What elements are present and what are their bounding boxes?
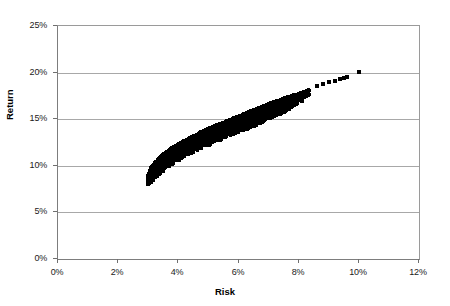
data-point xyxy=(160,169,163,172)
data-point xyxy=(268,114,271,117)
data-point xyxy=(276,100,279,103)
data-point xyxy=(192,147,195,150)
data-point xyxy=(258,122,261,125)
x-tick-mark xyxy=(298,259,299,263)
x-axis-title: Risk xyxy=(0,286,450,297)
data-point xyxy=(306,89,310,93)
y-tick-label: 0% xyxy=(5,253,47,263)
data-point xyxy=(180,157,183,160)
data-point xyxy=(251,125,254,128)
data-point xyxy=(338,77,342,81)
data-point xyxy=(357,70,361,74)
x-tick-label: 0% xyxy=(35,267,79,277)
y-tick-mark xyxy=(53,72,57,73)
x-tick-mark xyxy=(418,259,419,263)
x-tick-label: 2% xyxy=(95,267,139,277)
data-point xyxy=(152,178,155,181)
y-tick-mark xyxy=(53,25,57,26)
y-tick-label: 25% xyxy=(5,20,47,30)
data-point xyxy=(302,90,306,94)
data-point xyxy=(223,134,226,137)
data-point xyxy=(277,110,280,113)
y-tick-label: 20% xyxy=(5,67,47,77)
x-tick-label: 10% xyxy=(336,267,380,277)
x-tick-mark xyxy=(57,259,58,263)
x-tick-label: 8% xyxy=(276,267,320,277)
scatter-series-portfolios xyxy=(58,26,419,259)
data-point xyxy=(219,138,222,141)
x-tick-mark xyxy=(177,259,178,263)
data-point xyxy=(154,173,157,176)
data-point xyxy=(200,144,203,147)
data-point xyxy=(207,142,210,145)
data-point xyxy=(285,108,288,111)
risk-return-scatter-chart: 0%5%10%15%20%25% 0%2%4%6%8%10%12% Return… xyxy=(0,0,450,306)
x-tick-label: 6% xyxy=(216,267,260,277)
y-tick-mark xyxy=(53,211,57,212)
plot-area xyxy=(57,25,420,260)
data-point xyxy=(163,167,166,170)
data-point xyxy=(315,84,319,88)
data-point xyxy=(327,80,331,84)
data-point xyxy=(321,82,325,86)
x-tick-mark xyxy=(358,259,359,263)
data-point xyxy=(172,161,175,164)
y-tick-label: 5% xyxy=(5,206,47,216)
x-tick-mark xyxy=(238,259,239,263)
data-point xyxy=(211,141,214,144)
data-point xyxy=(190,152,193,155)
x-tick-label: 4% xyxy=(155,267,199,277)
data-point xyxy=(308,93,311,96)
y-axis-title: Return xyxy=(4,89,15,120)
y-tick-mark xyxy=(53,165,57,166)
data-point xyxy=(166,163,169,166)
data-point xyxy=(295,103,298,106)
data-point xyxy=(333,79,337,83)
data-point xyxy=(196,149,199,152)
data-point xyxy=(263,119,266,122)
y-tick-label: 10% xyxy=(5,160,47,170)
x-tick-mark xyxy=(117,259,118,263)
data-point xyxy=(291,103,294,106)
data-point xyxy=(181,153,184,156)
y-tick-mark xyxy=(53,118,57,119)
x-tick-label: 12% xyxy=(396,267,440,277)
data-point xyxy=(272,114,275,117)
data-point xyxy=(248,126,251,129)
data-point xyxy=(298,98,301,101)
data-point xyxy=(155,175,158,178)
data-point xyxy=(345,75,349,79)
data-point xyxy=(239,128,242,131)
